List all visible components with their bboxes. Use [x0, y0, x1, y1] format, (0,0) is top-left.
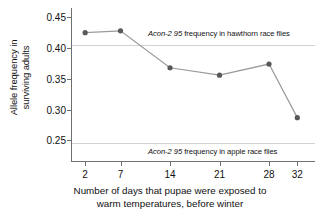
y-tick-label-0.30: 0.30	[47, 104, 66, 115]
x-tick-label-32: 32	[292, 169, 303, 180]
x-tick-14	[170, 162, 171, 166]
data-point-21	[217, 73, 222, 78]
y-axis-title-line1: Allele frequency in	[9, 40, 20, 116]
data-point-32	[295, 115, 300, 120]
x-axis-title-line1: Number of days that pupae were exposed t…	[74, 185, 267, 196]
series-line-path	[85, 31, 297, 118]
y-tick-label-0.40: 0.40	[47, 43, 66, 54]
x-tick-21	[220, 162, 221, 166]
y-tick-label-0.25: 0.25	[47, 135, 66, 146]
data-point-2	[83, 30, 88, 35]
data-point-14	[167, 65, 172, 70]
x-tick-label-2: 2	[82, 169, 88, 180]
x-tick-label-28: 28	[263, 169, 274, 180]
data-point-7	[118, 28, 123, 33]
y-tick-label-0.35: 0.35	[47, 73, 66, 84]
y-axis-title-line2: surviving adults	[20, 40, 32, 116]
chart-figure: Allele frequency in surviving adults 0.4…	[0, 0, 316, 218]
apple-race-reference-rest-label: frequency in apple race flies	[182, 147, 277, 156]
y-axis-title: Allele frequency in surviving adults	[0, 0, 40, 155]
x-axis-title-line2: warm temperatures, before winter	[24, 197, 316, 210]
y-tick-label-0.45: 0.45	[47, 12, 66, 23]
apple-race-reference-label: Acon-2 95 frequency in apple race flies	[148, 147, 277, 156]
hawthorn-race-reference-gene-label: Acon-2 95	[148, 29, 182, 38]
x-tick-label-14: 14	[164, 169, 175, 180]
hawthorn-race-reference-rest-label: frequency in hawthorn race flies	[182, 29, 290, 38]
x-tick-7	[121, 162, 122, 166]
x-axis-title: Number of days that pupae were exposed t…	[24, 184, 316, 210]
x-tick-2	[85, 162, 86, 166]
x-tick-label-7: 7	[118, 169, 124, 180]
x-tick-32	[297, 162, 298, 166]
x-tick-28	[269, 162, 270, 166]
hawthorn-race-reference-label: Acon-2 95 frequency in hawthorn race fli…	[148, 29, 290, 38]
data-point-28	[266, 61, 271, 66]
x-tick-label-21: 21	[214, 169, 225, 180]
apple-race-reference-gene-label: Acon-2 95	[148, 147, 182, 156]
plot-area: 0.450.400.350.300.25 2714212832 Acon-2 9…	[71, 8, 315, 162]
